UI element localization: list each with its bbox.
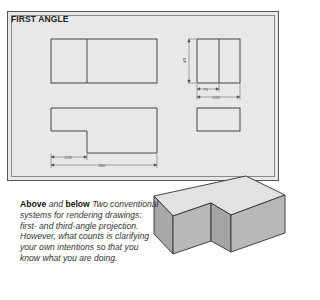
dim-side-height: 40 [182,58,187,64]
front-view [51,39,157,83]
dim-plan-total: 365 [98,163,106,168]
dim-side-total-width: 150 [212,95,220,100]
isometric-block [154,176,285,254]
dim-plan-step: 150 [64,155,72,160]
caption: Above and below Two conventional systems… [20,199,160,264]
dimensions [51,39,240,168]
plan-view [51,108,157,153]
caption-bold-below: below [65,199,89,209]
caption-and: and [46,199,65,209]
side-view [197,39,240,83]
side-plan-view [197,108,240,131]
dim-side-part-width: 75 [203,87,209,92]
caption-bold-above: Above [20,199,46,209]
